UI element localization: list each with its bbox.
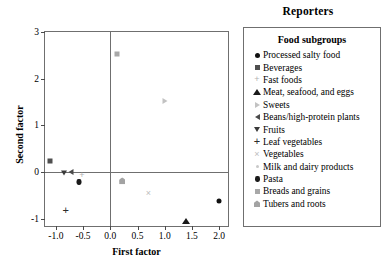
legend-item[interactable]: Processed salty food (244, 49, 380, 61)
data-point (182, 218, 190, 224)
legend-item[interactable]: Breads and grains (244, 185, 380, 197)
legend-item[interactable]: Beans/high-protein plants (244, 111, 380, 123)
data-point (69, 169, 74, 175)
x-axis-tick-label: 0.5 (132, 231, 144, 241)
legend-item-label: Beverages (263, 62, 302, 74)
legend-item-label: Pasta (263, 173, 283, 185)
data-point: × (144, 189, 152, 197)
triangle-down-marker-icon (254, 127, 260, 132)
legend-key (251, 173, 263, 185)
legend-key: + (251, 74, 263, 86)
data-point (61, 170, 67, 175)
pasta-marker-icon (77, 179, 82, 185)
legend-item[interactable]: Beverages (244, 61, 380, 73)
legend-item-label: Beans/high-protein plants (263, 111, 360, 123)
legend-key (251, 198, 263, 210)
legend-item-label: Milk and dairy products (263, 161, 353, 173)
data-point (119, 177, 125, 184)
x-axis-tick (110, 226, 111, 230)
cross-marker-icon: × (144, 189, 152, 197)
legend-key: × (251, 148, 263, 160)
data-point (48, 159, 53, 164)
x-axis-tick (83, 226, 84, 230)
y-axis-tick-label: 1 (34, 120, 39, 130)
y-axis-tick (41, 32, 45, 33)
data-point (114, 52, 119, 57)
legend-item[interactable]: +Leaf vegetables (244, 136, 380, 148)
data-point (216, 198, 221, 203)
x-axis-tick-label: -0.5 (76, 231, 91, 241)
vertical-reference-line (110, 32, 111, 226)
legend-item-label: Processed salty food (263, 49, 340, 61)
x-axis-tick-label: 2.0 (213, 231, 225, 241)
legend-item-label: Tubers and roots (263, 198, 326, 210)
y-axis-tick (41, 79, 45, 80)
legend-key (251, 86, 263, 98)
legend-item-label: Leaf vegetables (263, 136, 322, 148)
plot-canvas: -10123-1.0-0.50.00.51.01.52.0++× (45, 32, 228, 226)
square-gray-marker-icon (255, 189, 260, 194)
plus-marker-icon: + (253, 137, 262, 146)
square-marker-icon (48, 159, 53, 164)
legend-item[interactable]: ×Vegetables (244, 148, 380, 160)
legend-list: Processed salty foodBeverages+Fast foods… (244, 49, 380, 210)
y-axis-tick-label: -1 (31, 214, 39, 224)
data-point (162, 98, 167, 104)
legend-item[interactable]: Milk and dairy products (244, 161, 380, 173)
plus-marker-icon: + (61, 206, 70, 215)
legend-item[interactable]: Pasta (244, 173, 380, 185)
tuber-marker-icon (254, 200, 260, 207)
legend-key (251, 124, 263, 136)
x-axis-tick-label: 0.0 (104, 231, 116, 241)
dot-lite-marker-icon (256, 165, 259, 168)
legend-item[interactable]: Fruits (244, 123, 380, 135)
circle-marker-icon (216, 198, 221, 203)
square-gray-marker-icon (114, 52, 119, 57)
triangle-up-marker-icon (253, 89, 261, 95)
legend-item[interactable]: +Fast foods (244, 74, 380, 86)
x-axis-tick-label: -1.0 (48, 231, 63, 241)
legend-key (251, 62, 263, 74)
triangle-down-marker-icon (61, 170, 67, 175)
y-axis-tick-label: 0 (34, 167, 39, 177)
data-point: + (79, 172, 86, 179)
legend-item[interactable]: Tubers and roots (244, 198, 380, 210)
legend-item-label: Sweets (263, 99, 290, 111)
triangle-left-marker-icon (69, 169, 74, 175)
page-title: Reporters (243, 5, 373, 17)
plus-lite-marker-icon: + (79, 172, 86, 179)
y-axis-tick (41, 219, 45, 220)
data-point (77, 179, 82, 185)
legend-item[interactable]: Sweets (244, 99, 380, 111)
triangle-left-marker-icon (255, 114, 260, 120)
y-axis-tick-label: 2 (34, 74, 39, 84)
legend-item-label: Fruits (263, 124, 285, 136)
circle-marker-icon (255, 53, 260, 58)
legend-key (251, 99, 263, 111)
legend-key (251, 185, 263, 197)
plus-lite-marker-icon: + (254, 76, 261, 83)
x-axis-tick (192, 226, 193, 230)
y-axis-title: Second factor (14, 80, 25, 190)
x-axis-tick-label: 1.0 (159, 231, 171, 241)
x-axis-tick (219, 226, 220, 230)
x-axis-tick (165, 226, 166, 230)
y-axis-tick (41, 172, 45, 173)
x-axis-title: First factor (44, 246, 229, 257)
legend-key (251, 111, 263, 123)
x-axis-tick (56, 226, 57, 230)
square-marker-icon (255, 65, 260, 70)
triangle-up-marker-icon (182, 218, 190, 224)
plot-area: -10123-1.0-0.50.00.51.01.52.0++× (44, 31, 229, 227)
legend-key (251, 161, 263, 173)
legend-key (251, 49, 263, 61)
tuber-marker-icon (119, 177, 125, 184)
legend: Food subgroups Processed salty foodBever… (243, 27, 381, 227)
legend-item[interactable]: Meat, seafood, and eggs (244, 86, 380, 98)
y-axis-tick-label: 3 (34, 27, 39, 37)
legend-key: + (251, 136, 263, 148)
x-axis-tick-label: 1.5 (186, 231, 198, 241)
cross-marker-icon: × (253, 150, 261, 158)
data-point: + (61, 206, 70, 215)
legend-item-label: Fast foods (263, 74, 302, 86)
